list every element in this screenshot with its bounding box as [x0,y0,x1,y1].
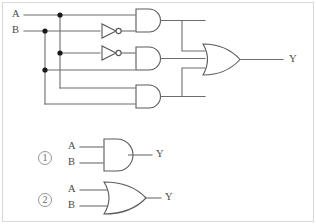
and-gate-3-body [136,85,161,108]
input-label-a: A [12,8,20,19]
legend-marker-1-label: 1 [43,152,48,163]
not-gate-1-bubble [116,28,121,33]
legend-2-output-y-label: Y [165,191,173,202]
junction-b-and2 [42,67,47,72]
logic-circuit-diagram: A B [0,0,316,224]
not-gate-2 [102,46,135,60]
legend-1-input-b-label: B [68,156,75,167]
legend-2-or-gate-body [104,182,146,214]
and-gate-1 [136,9,205,32]
and-gate-1-body [136,9,161,32]
not-gate-1-triangle [102,24,116,38]
legend-item-or: 2 A B Y [39,182,174,214]
main-circuit: A B [12,8,297,108]
legend-1-input-a-label: A [68,140,76,151]
or-gate-1 [203,44,283,75]
and-gate-2-body [136,47,161,70]
junction-a-not2 [57,50,62,55]
input-label-b: B [12,24,19,35]
legend-2-input-b-label: B [68,199,75,210]
or-gate-1-body [203,44,240,75]
legend-2-input-a-label: A [68,183,76,194]
not-gate-2-bubble [116,50,121,55]
wire-and3-to-or [182,68,205,97]
schematic-canvas: A B [0,0,316,224]
legend-1-output-y-label: Y [156,148,164,159]
junction-a-rail [57,12,62,17]
output-label-y: Y [289,53,297,64]
legend-marker-2-label: 2 [43,194,48,205]
not-gate-1 [102,24,135,38]
wire-and1-to-or [182,21,205,52]
and-gate-3 [136,85,205,108]
page-frame [3,3,314,222]
junction-b-rail [42,28,47,33]
not-gate-2-triangle [102,46,116,60]
legend-item-and: 1 A B Y [39,139,165,171]
